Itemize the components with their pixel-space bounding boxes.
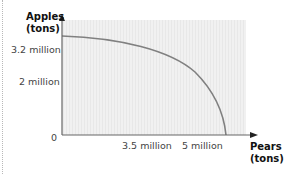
y-tick-3-2-million: 3.2 million [11,44,61,55]
y-axis-label-line1: Apples [26,11,64,23]
x-axis-arrow-icon [250,132,258,138]
y-axis-label: Apples (tons) [26,11,64,35]
y-tick-2-million: 2 million [19,76,60,87]
y-axis-label-line2: (tons) [26,23,64,35]
x-tick-3-5-million: 3.5 million [122,140,172,151]
x-axis-label-line1: Pears [250,141,284,153]
origin-label: 0 [51,132,57,143]
x-axis-label-line2: (tons) [250,153,284,165]
x-tick-5-million: 5 million [182,140,223,151]
x-axis-label: Pears (tons) [250,141,284,165]
